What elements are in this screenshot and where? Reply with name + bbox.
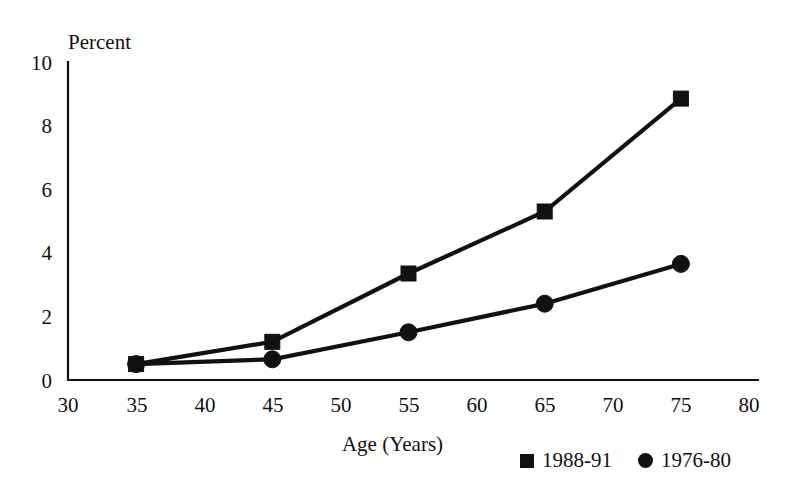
chart-legend: 1988-91 1976-80	[520, 448, 731, 473]
x-tick-label-35: 35	[127, 393, 148, 417]
data-point-1976-80-age-65	[536, 295, 553, 312]
y-tick-label-8: 8	[42, 114, 53, 138]
circle-marker-icon	[638, 453, 653, 468]
chart-figure: Percent 10 8 6 4 2 0 30 35 40 45 50 55 6…	[0, 0, 785, 489]
data-point-1988-91-age-55	[401, 266, 416, 281]
x-tick-label-40: 40	[195, 393, 216, 417]
x-tick-label-75: 75	[671, 393, 692, 417]
x-tick-label-65: 65	[535, 393, 556, 417]
x-tick-label-30: 30	[58, 393, 79, 417]
x-tick-label-45: 45	[263, 393, 284, 417]
square-marker-icon	[520, 454, 534, 468]
data-point-1976-80-age-35	[128, 356, 145, 373]
legend-label-1988-91: 1988-91	[542, 448, 612, 473]
x-tick-label-60: 60	[467, 393, 488, 417]
data-point-1976-80-age-55	[400, 324, 417, 341]
legend-entry-1976-80: 1976-80	[638, 448, 731, 473]
x-tick-label-70: 70	[603, 393, 624, 417]
y-tick-label-0: 0	[42, 369, 53, 393]
x-tick-label-80: 80	[739, 393, 760, 417]
data-point-1976-80-age-75	[672, 255, 689, 272]
legend-entry-1988-91: 1988-91	[520, 448, 612, 473]
legend-label-1976-80: 1976-80	[661, 448, 731, 473]
line-chart-plot: 10 8 6 4 2 0 30 35 40 45 50 55 60 65 70 …	[0, 0, 785, 489]
y-tick-label-10: 10	[31, 51, 52, 75]
data-point-1976-80-age-45	[264, 351, 281, 368]
data-point-1988-91-age-45	[265, 334, 280, 349]
series-layer	[128, 91, 690, 373]
y-tick-label-2: 2	[42, 305, 53, 329]
x-tick-label-50: 50	[331, 393, 352, 417]
x-tick-label-55: 55	[399, 393, 420, 417]
data-point-1988-91-age-75	[673, 91, 688, 106]
y-tick-label-6: 6	[42, 178, 53, 202]
y-tick-label-4: 4	[42, 241, 53, 265]
data-point-1988-91-age-65	[537, 204, 552, 219]
